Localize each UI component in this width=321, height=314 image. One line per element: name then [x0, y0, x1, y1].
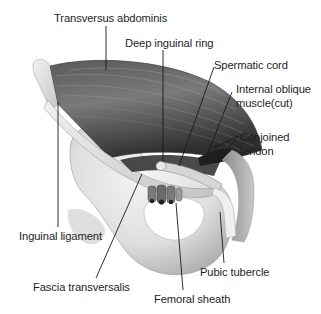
- label-conjoined-tendon-line1: Conjoined: [240, 131, 289, 144]
- label-internal-oblique-line2: muscle(cut): [236, 97, 293, 110]
- label-internal-oblique-line1: Internal oblique: [236, 83, 311, 96]
- label-inguinal-ligament: Inguinal ligament: [19, 230, 102, 243]
- label-pubic-tubercle: Pubic tubercle: [200, 266, 270, 279]
- label-deep-inguinal-ring: Deep inguinal ring: [125, 37, 213, 50]
- label-spermatic-cord: Spermatic cord: [214, 59, 288, 72]
- label-femoral-sheath: Femoral sheath: [154, 293, 230, 306]
- label-transversus-abdominis: Transversus abdominis: [54, 12, 167, 25]
- anatomy-diagram: Transversus abdominis Deep inguinal ring…: [0, 0, 321, 314]
- label-conjoined-tendon-line2: tendon: [240, 145, 274, 158]
- label-fascia-transversalis: Fascia transversalis: [33, 281, 130, 294]
